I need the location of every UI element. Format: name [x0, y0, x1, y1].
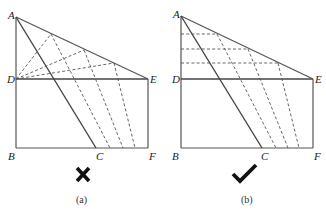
- dash-D-p1: [16, 34, 51, 79]
- label-D: D: [6, 73, 15, 85]
- line-AC: [16, 17, 96, 148]
- label-E: E: [149, 73, 157, 85]
- label-F: F: [313, 150, 321, 162]
- dash-p3-down: [114, 63, 135, 148]
- label-D: D: [171, 73, 180, 85]
- cross-icon: [77, 168, 89, 181]
- panel-a: A D E B C F (a): [6, 9, 157, 206]
- dash-D-p2: [16, 50, 84, 79]
- dash-p1-down: [217, 34, 276, 148]
- caption-a: (a): [76, 194, 87, 206]
- caption-b: (b): [241, 194, 253, 206]
- label-A: A: [172, 8, 180, 20]
- dash-D-p3: [16, 63, 114, 79]
- label-B: B: [172, 150, 179, 162]
- dash-p3-down: [278, 63, 299, 148]
- label-B: B: [8, 150, 15, 162]
- label-F: F: [148, 150, 156, 162]
- check-icon: [233, 165, 256, 181]
- label-C: C: [96, 150, 104, 162]
- label-C: C: [261, 150, 269, 162]
- label-A: A: [7, 9, 15, 21]
- geometry-diagram: A D E B C F (a) A D E B C F: [0, 0, 326, 213]
- line-AE: [16, 17, 148, 79]
- panel-b: A D E B C F (b): [171, 8, 322, 206]
- label-E: E: [314, 73, 322, 85]
